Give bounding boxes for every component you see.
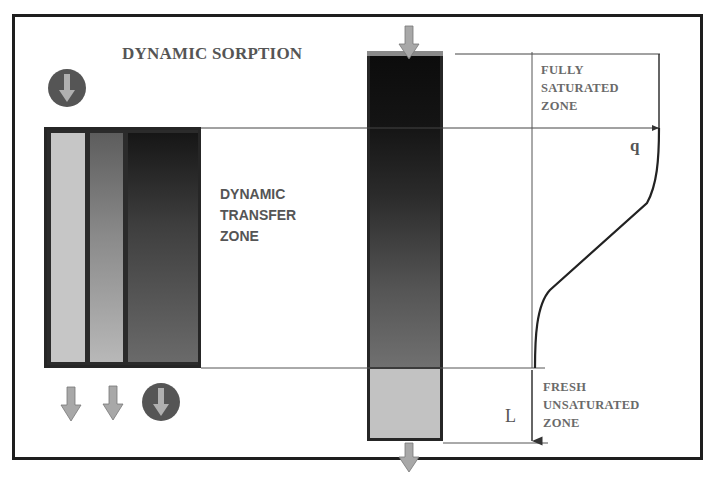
concentration-profile-curve bbox=[535, 128, 659, 368]
down-arrow-icon bbox=[61, 387, 81, 421]
down-arrow-icon bbox=[103, 386, 123, 420]
column-inflow-arrow-icon bbox=[399, 26, 419, 59]
circle-down-arrow-icon bbox=[48, 69, 86, 107]
circle-down-arrow-icon bbox=[142, 383, 180, 421]
diagram-lines bbox=[0, 0, 710, 490]
column-outflow-arrow-icon bbox=[399, 443, 419, 472]
